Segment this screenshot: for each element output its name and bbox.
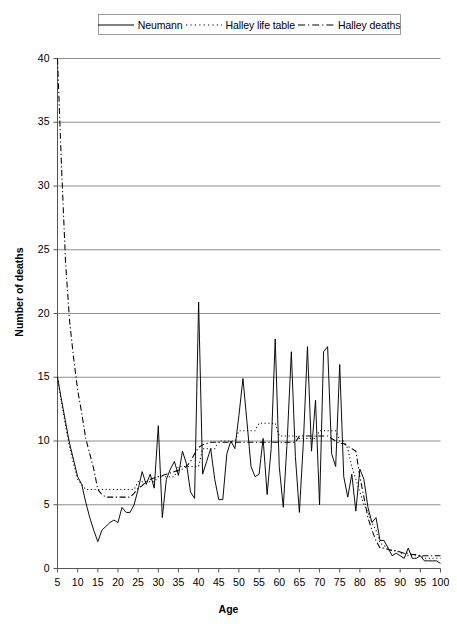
y-tick-label-25: 25 [24, 243, 50, 255]
y-tick-label-0: 0 [24, 562, 50, 574]
y-tick-label-40: 40 [24, 52, 50, 64]
series-line-halley-deaths [58, 59, 441, 556]
x-tick-label-100: 100 [428, 576, 454, 588]
y-tick-label-10: 10 [24, 434, 50, 446]
y-tick-label-20: 20 [24, 307, 50, 319]
y-tick-label-35: 35 [24, 115, 50, 127]
chart-container: Neumann Halley life table Halley deaths … [0, 0, 457, 627]
y-tick-label-15: 15 [24, 370, 50, 382]
y-tick-label-5: 5 [24, 498, 50, 510]
y-tick-label-30: 30 [24, 179, 50, 191]
plot-area [0, 0, 457, 627]
series-line-halley-life-table [58, 377, 441, 558]
series-line-neumann [58, 302, 441, 563]
